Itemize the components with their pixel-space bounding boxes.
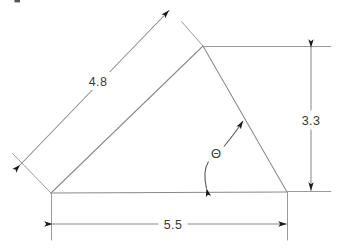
dimension-label-4-8: 4.8	[89, 75, 108, 89]
dimension-label-5-5: 5.5	[164, 218, 183, 232]
dimension-label-3-3: 3.3	[302, 114, 321, 128]
angle-label-theta: Θ	[211, 146, 221, 161]
extension-line-bottom-left	[13, 154, 52, 194]
angle-arc-upper	[224, 121, 243, 147]
triangle-dimension-figure: 4.8 3.3 5.5	[0, 0, 337, 250]
diagram-canvas: 4.8 3.3 5.5	[0, 0, 337, 250]
dimension-group-4-8: 4.8	[13, 11, 204, 194]
extension-line-apex	[182, 22, 204, 47]
scan-artifact-speck	[15, 0, 21, 2]
angle-group-theta: Θ	[205, 121, 243, 189]
triangle-outline	[51, 46, 287, 193]
angle-arc-lower	[205, 162, 209, 189]
triangle-right-side	[203, 46, 287, 192]
dimension-group-5-5: 5.5	[52, 192, 288, 240]
triangle-base	[51, 192, 287, 193]
triangle-left-side	[51, 46, 203, 193]
dimension-group-3-3: 3.3	[203, 47, 331, 192]
